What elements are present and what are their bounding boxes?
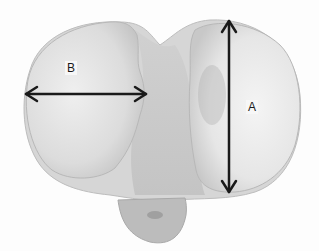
tibial-stem	[118, 198, 186, 243]
figure-stage: B A	[0, 0, 319, 251]
label-a: A	[246, 100, 258, 114]
label-b: B	[65, 61, 77, 75]
specimen-illustration	[0, 0, 319, 251]
condyle-shadow	[198, 65, 226, 125]
